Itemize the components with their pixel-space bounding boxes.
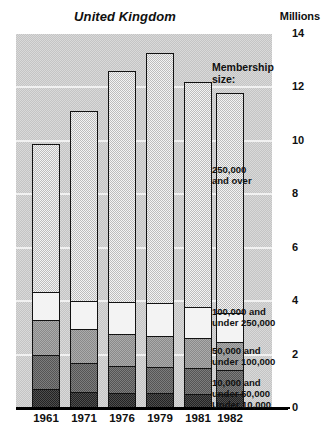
y-tick-12: 12 <box>292 81 304 92</box>
y-tick-2: 2 <box>292 349 298 360</box>
bar-segment-1979-100-000-and-under-250-000 <box>147 303 173 336</box>
y-tick-4: 4 <box>292 295 298 306</box>
legend-title: Membership size: <box>212 62 274 85</box>
bar-1976 <box>108 71 136 408</box>
x-tick-1976: 1976 <box>102 412 142 424</box>
bar-segment-1981-100-000-and-under-250-000 <box>185 307 211 338</box>
y-tick-8: 8 <box>292 188 298 199</box>
bar-segment-1981-250-000-and-over <box>185 83 211 307</box>
y-tick-6: 6 <box>292 242 298 253</box>
legend-note-50000-100000-line-2: under 100,000 <box>212 356 275 367</box>
bar-segment-1979-under-10-000 <box>147 393 173 407</box>
bar-segment-1981-50-000-and-under-100-000 <box>185 338 211 368</box>
bar-segment-1961-under-10-000 <box>33 389 59 407</box>
y-tick-14: 14 <box>292 28 304 39</box>
bar-1971 <box>70 111 98 408</box>
legend-note-100000-250000-line-1: 100,000 and <box>212 306 275 317</box>
bar-segment-1981-under-10-000 <box>185 394 211 407</box>
legend-note-100000-250000: 100,000 and under 250,000 <box>212 306 275 328</box>
x-tick-1971: 1971 <box>64 412 104 424</box>
bar-segment-1961-50-000-and-under-100-000 <box>33 320 59 355</box>
legend-note-10000-50000-line-1: 10,000 and <box>212 377 270 388</box>
bar-segment-1971-250-000-and-over <box>71 112 97 300</box>
bar-segment-1976-100-000-and-under-250-000 <box>109 302 135 334</box>
x-tick-1982: 1982 <box>210 412 250 424</box>
bar-segment-1979-10-000-and-under-50-000 <box>147 367 173 393</box>
y-axis-units-label: Millions <box>280 10 320 22</box>
legend-note-10000-50000-line-2: under 50,000 <box>212 388 270 399</box>
legend-note-over-250000-line-1: 250,000 <box>212 164 252 175</box>
legend-title-line-2: size: <box>212 74 274 86</box>
legend-note-100000-250000-line-2: under 250,000 <box>212 317 275 328</box>
legend-note-over-250000: 250,000 and over <box>212 164 252 186</box>
y-tick-0: 0 <box>292 402 298 413</box>
bar-1979 <box>146 53 174 408</box>
bar-segment-1976-under-10-000 <box>109 393 135 407</box>
bar-segment-1961-250-000-and-over <box>33 145 59 293</box>
bar-segment-1961-10-000-and-under-50-000 <box>33 355 59 389</box>
bar-segment-1981-10-000-and-under-50-000 <box>185 368 211 394</box>
bar-1961 <box>32 144 60 408</box>
chart-title: United Kingdom <box>0 9 250 24</box>
bar-segment-1971-50-000-and-under-100-000 <box>71 329 97 363</box>
x-tick-1979: 1979 <box>140 412 180 424</box>
bar-segment-1976-50-000-and-under-100-000 <box>109 334 135 365</box>
bar-segment-1971-100-000-and-under-250-000 <box>71 301 97 329</box>
legend-note-50000-100000: 50,000 and under 100,000 <box>212 345 275 367</box>
bar-segment-1971-under-10-000 <box>71 392 97 407</box>
x-tick-1961: 1961 <box>26 412 66 424</box>
bar-segment-1979-50-000-and-under-100-000 <box>147 336 173 367</box>
bar-1981 <box>184 82 212 408</box>
bar-segment-1971-10-000-and-under-50-000 <box>71 363 97 391</box>
y-tick-10: 10 <box>292 135 304 146</box>
legend-note-50000-100000-line-1: 50,000 and <box>212 345 275 356</box>
legend-note-10000-50000: 10,000 and under 50,000 <box>212 377 270 399</box>
legend-note-under-10000: Under 10,000 <box>212 399 271 410</box>
legend-note-over-250000-line-2: and over <box>212 175 252 186</box>
bar-segment-1976-10-000-and-under-50-000 <box>109 366 135 393</box>
bar-chart: United Kingdom Millions 02468101214 1961… <box>0 0 322 435</box>
bar-segment-1982-250-000-and-over <box>217 94 243 313</box>
bar-segment-1961-100-000-and-under-250-000 <box>33 292 59 320</box>
legend-title-line-1: Membership <box>212 62 274 74</box>
bar-segment-1979-250-000-and-over <box>147 54 173 304</box>
bar-segment-1976-250-000-and-over <box>109 72 135 302</box>
